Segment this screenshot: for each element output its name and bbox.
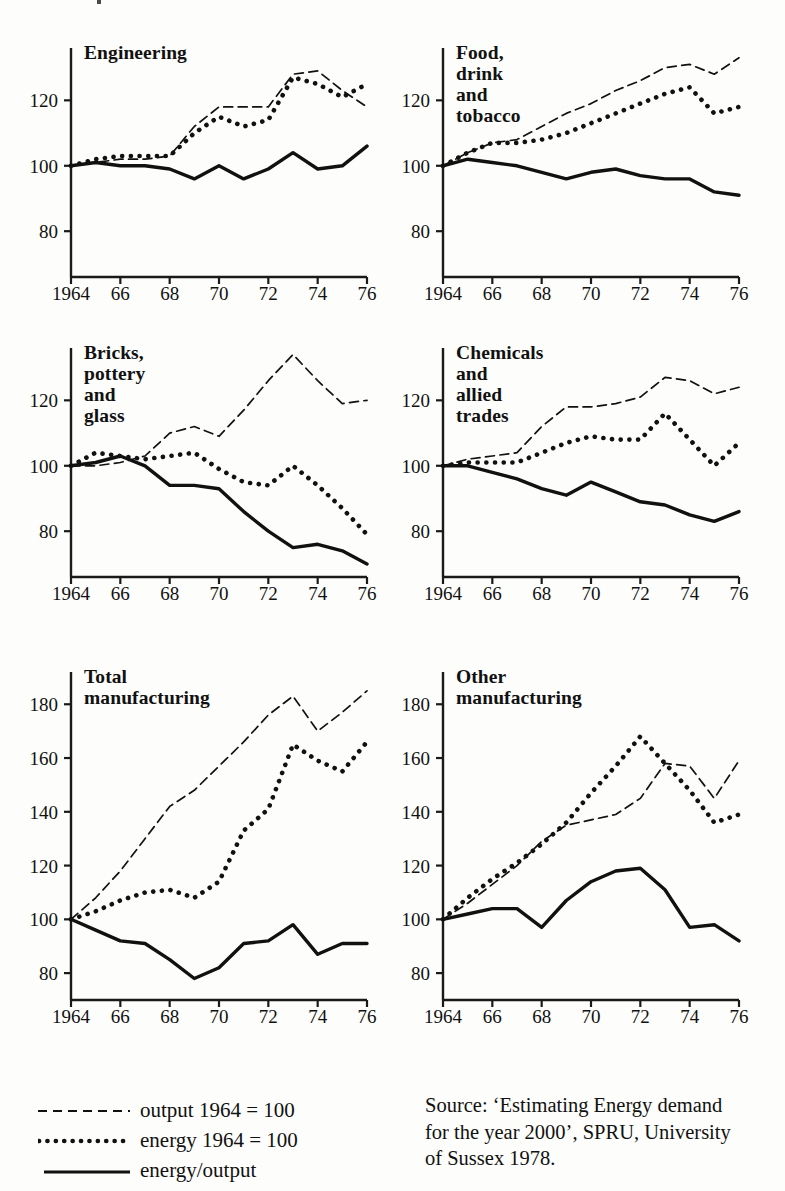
source-line-3: of Sussex 1978.: [425, 1145, 780, 1172]
x-tick-label: 66: [111, 283, 130, 304]
panel-title: Chemicals and allied trades: [456, 342, 544, 426]
y-tick-label: 180: [402, 694, 431, 715]
y-tick-label: 120: [30, 390, 59, 411]
y-tick-label: 100: [402, 909, 431, 930]
x-tick-label: 76: [730, 283, 749, 304]
series-solid: [443, 466, 739, 522]
panel-title: Other manufacturing: [456, 666, 582, 708]
series-dotted: [71, 742, 367, 919]
legend-label-energy-output: energy/output: [140, 1158, 256, 1183]
series-solid: [443, 868, 739, 941]
x-tick-label: 70: [582, 1006, 601, 1027]
legend-label-output: output 1964 = 100: [140, 1098, 295, 1123]
legend-item-energy-output: energy/output: [38, 1155, 378, 1185]
x-axis-ticks: 1964666870727476: [52, 1000, 377, 1027]
y-tick-label: 120: [402, 90, 431, 111]
y-tick-label: 100: [402, 156, 431, 177]
x-tick-label: 68: [160, 1006, 179, 1027]
x-tick-label: 74: [308, 283, 328, 304]
x-tick-label: 70: [210, 583, 229, 604]
y-tick-label: 80: [411, 963, 430, 984]
x-tick-label: 70: [210, 283, 229, 304]
scan-artifact-mark: [97, 0, 101, 4]
dashed-line-key: [38, 1103, 130, 1117]
y-tick-label: 80: [39, 963, 58, 984]
x-axis-ticks: 1964666870727476: [424, 277, 749, 304]
series-solid: [71, 919, 367, 978]
x-tick-label: 72: [631, 583, 650, 604]
x-tick-label: 76: [730, 583, 749, 604]
x-tick-label: 66: [111, 1006, 130, 1027]
axes: [443, 672, 739, 1000]
series-solid: [443, 159, 739, 195]
x-tick-label: 66: [483, 583, 502, 604]
x-tick-label: 74: [680, 283, 700, 304]
x-tick-label: 66: [483, 1006, 502, 1027]
y-tick-label: 140: [30, 802, 59, 823]
x-tick-label: 72: [259, 283, 278, 304]
series-dotted: [71, 453, 367, 535]
y-axis-ticks: 80100120: [402, 390, 444, 542]
y-axis-ticks: 80100120140160180: [30, 694, 72, 984]
y-axis-ticks: 80100120: [402, 90, 444, 242]
panel-title: Food, drink and tobacco: [456, 42, 521, 126]
figure-page: 801001201964666870727476Engineering80100…: [0, 0, 785, 1191]
x-tick-label: 76: [358, 1006, 377, 1027]
y-tick-label: 100: [30, 456, 59, 477]
dotted-line-key: [38, 1133, 130, 1147]
x-tick-label: 1964: [424, 583, 463, 604]
y-tick-label: 80: [411, 521, 430, 542]
x-tick-label: 68: [160, 583, 179, 604]
x-tick-label: 66: [111, 583, 130, 604]
y-tick-label: 120: [402, 856, 431, 877]
source-note: Source: ‘Estimating Energy demand for th…: [425, 1092, 780, 1172]
x-axis-ticks: 1964666870727476: [52, 277, 377, 304]
x-tick-label: 1964: [52, 583, 91, 604]
panel-title: Engineering: [84, 42, 187, 63]
source-line-2: for the year 2000’, SPRU, University: [425, 1119, 780, 1146]
x-tick-label: 72: [631, 1006, 650, 1027]
x-tick-label: 76: [730, 1006, 749, 1027]
legend-label-energy: energy 1964 = 100: [140, 1128, 298, 1153]
x-axis-ticks: 1964666870727476: [52, 577, 377, 604]
legend-item-energy: energy 1964 = 100: [38, 1125, 378, 1155]
axes: [71, 48, 367, 277]
series-dashed: [71, 71, 367, 166]
y-tick-label: 140: [402, 802, 431, 823]
y-tick-label: 160: [402, 748, 431, 769]
x-tick-label: 1964: [424, 283, 463, 304]
x-tick-label: 76: [358, 283, 377, 304]
x-tick-label: 66: [483, 283, 502, 304]
series-solid: [71, 146, 367, 179]
x-tick-label: 74: [308, 583, 328, 604]
solid-line-key: [38, 1163, 130, 1177]
x-tick-label: 76: [358, 583, 377, 604]
x-tick-label: 70: [582, 283, 601, 304]
panel-title: Total manufacturing: [84, 666, 210, 708]
y-tick-label: 180: [30, 694, 59, 715]
source-line-1: Source: ‘Estimating Energy demand: [425, 1092, 780, 1119]
x-tick-label: 70: [582, 583, 601, 604]
x-axis-ticks: 1964666870727476: [424, 1000, 749, 1027]
y-tick-label: 100: [30, 909, 59, 930]
y-tick-label: 100: [402, 456, 431, 477]
panel-title: Bricks, pottery and glass: [84, 342, 145, 426]
series-dashed: [71, 691, 367, 920]
x-tick-label: 74: [680, 1006, 700, 1027]
legend-item-output: output 1964 = 100: [38, 1095, 378, 1125]
x-tick-label: 68: [532, 283, 551, 304]
y-axis-ticks: 80100120140160180: [402, 694, 444, 984]
x-tick-label: 1964: [52, 1006, 91, 1027]
y-axis-ticks: 80100120: [30, 90, 72, 242]
x-axis-ticks: 1964666870727476: [424, 577, 749, 604]
x-tick-label: 72: [631, 283, 650, 304]
x-tick-label: 1964: [424, 1006, 463, 1027]
x-tick-label: 68: [532, 583, 551, 604]
series-dotted: [71, 77, 367, 165]
y-tick-label: 120: [402, 390, 431, 411]
x-tick-label: 74: [308, 1006, 328, 1027]
y-tick-label: 80: [411, 221, 430, 242]
y-tick-label: 80: [39, 221, 58, 242]
y-tick-label: 160: [30, 748, 59, 769]
x-tick-label: 70: [210, 1006, 229, 1027]
